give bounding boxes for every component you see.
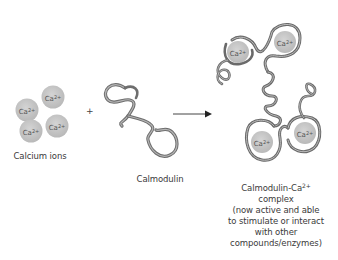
bound-ion-label: Ca2+: [273, 38, 297, 48]
reaction-arrow-icon: [173, 111, 212, 118]
calmodulin-ribbon-icon: [105, 85, 177, 157]
complex-line-4: to stimulate or interact: [218, 216, 334, 227]
plus-operator: +: [86, 106, 94, 116]
calcium-ions-label: Calcium ions: [0, 151, 80, 162]
ion-label: Ca2+: [41, 93, 65, 103]
complex-line-3: (now active and able: [218, 205, 334, 216]
complex-line-2: complex: [218, 194, 334, 205]
ion-label: Ca2+: [19, 127, 43, 137]
complex-line-5: with other: [218, 227, 334, 238]
calmodulin-label: Calmodulin: [115, 174, 205, 185]
complex-label: Calmodulin-Ca2+ complex (now active and …: [218, 180, 334, 249]
complex-title: Calmodulin-Ca2+: [218, 180, 334, 194]
bound-ion-label: Ca2+: [250, 138, 274, 148]
bound-ion-label: Ca2+: [293, 129, 317, 139]
bound-ion-label: Ca2+: [226, 48, 250, 58]
ion-label: Ca2+: [45, 122, 69, 132]
ion-label: Ca2+: [15, 106, 39, 116]
complex-line-6: compounds/enzymes): [218, 238, 334, 249]
